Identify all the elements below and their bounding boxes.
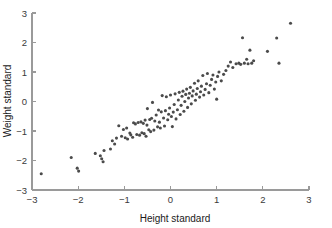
data-point: [125, 127, 128, 130]
data-point: [180, 104, 183, 107]
data-point: [176, 108, 179, 111]
x-tick-label: 2: [260, 194, 265, 205]
data-point: [138, 134, 141, 137]
data-point: [190, 102, 193, 105]
data-point: [120, 135, 123, 138]
data-point: [151, 101, 154, 104]
x-axis-title: Height standard: [140, 213, 211, 224]
data-point: [170, 115, 173, 118]
y-tick-label: −1: [16, 126, 27, 137]
data-point: [243, 62, 246, 65]
plot-canvas: −3−2−10123 −3−2−10123 Height standard We…: [0, 0, 332, 228]
data-point: [214, 80, 217, 83]
data-point: [149, 130, 152, 133]
data-point: [210, 78, 213, 81]
data-point: [171, 125, 174, 128]
data-point: [158, 121, 161, 124]
data-point: [94, 152, 97, 155]
data-point: [183, 100, 186, 103]
data-point: [266, 50, 269, 53]
data-point: [146, 107, 149, 110]
data-point: [144, 119, 147, 122]
data-point: [159, 127, 162, 130]
data-point: [166, 118, 169, 121]
data-point: [161, 94, 164, 97]
data-point: [102, 160, 105, 163]
data-point: [217, 70, 220, 73]
data-point: [122, 128, 125, 131]
axes: [32, 13, 309, 190]
data-point: [178, 91, 181, 94]
data-point: [209, 84, 212, 87]
data-point: [164, 109, 167, 112]
data-point: [215, 98, 218, 101]
y-tick-label: 2: [22, 37, 27, 48]
data-point: [144, 135, 147, 138]
data-point: [77, 170, 80, 173]
data-point: [126, 137, 129, 140]
data-point: [197, 79, 200, 82]
data-point: [185, 88, 188, 91]
data-point: [156, 125, 159, 128]
data-point: [131, 136, 134, 139]
x-tick-label: −2: [73, 194, 84, 205]
data-point: [199, 90, 202, 93]
data-point: [40, 172, 43, 175]
tick-marks: [32, 13, 309, 190]
x-axis-tick-labels: −3−2−10123: [27, 194, 312, 205]
data-point: [277, 62, 280, 65]
y-axis-tick-labels: −3−2−10123: [16, 8, 27, 196]
data-point: [177, 98, 180, 101]
data-point: [248, 49, 251, 52]
data-point: [169, 93, 172, 96]
data-point: [229, 60, 232, 63]
data-point: [155, 114, 158, 117]
data-point: [179, 113, 182, 116]
data-point: [109, 147, 112, 150]
data-point: [145, 124, 148, 127]
data-point: [195, 93, 198, 96]
data-point: [227, 65, 230, 68]
data-point: [275, 37, 278, 40]
data-point: [152, 129, 155, 132]
data-point: [211, 73, 214, 76]
data-point: [153, 119, 156, 122]
data-point: [165, 95, 168, 98]
data-point: [115, 137, 118, 140]
data-point: [167, 113, 170, 116]
data-point: [174, 92, 177, 95]
data-point: [224, 69, 227, 72]
data-point: [135, 133, 138, 136]
data-point: [173, 103, 176, 106]
data-point: [70, 156, 73, 159]
data-point: [191, 94, 194, 97]
data-point: [206, 72, 209, 75]
data-point: [198, 96, 201, 99]
y-tick-label: 1: [22, 67, 27, 78]
data-point: [76, 167, 79, 170]
x-tick-label: −3: [27, 194, 38, 205]
data-point: [289, 22, 292, 25]
data-point: [231, 66, 234, 69]
data-point: [150, 117, 153, 120]
data-point: [180, 95, 183, 98]
data-point: [200, 85, 203, 88]
data-point: [100, 157, 103, 160]
data-point: [143, 132, 146, 135]
x-tick-label: 3: [306, 194, 311, 205]
data-point: [188, 92, 191, 95]
data-point: [252, 59, 255, 62]
data-point: [172, 111, 175, 114]
x-tick-label: −1: [119, 194, 130, 205]
data-point: [113, 142, 116, 145]
data-point: [99, 154, 102, 157]
data-point: [222, 73, 225, 76]
data-point: [102, 149, 105, 152]
data-point: [137, 121, 140, 124]
data-point: [216, 75, 219, 78]
y-axis-title: Weight standard: [2, 65, 13, 138]
data-point: [235, 62, 238, 65]
data-point: [181, 90, 184, 93]
data-point: [241, 36, 244, 39]
data-point: [220, 79, 223, 82]
